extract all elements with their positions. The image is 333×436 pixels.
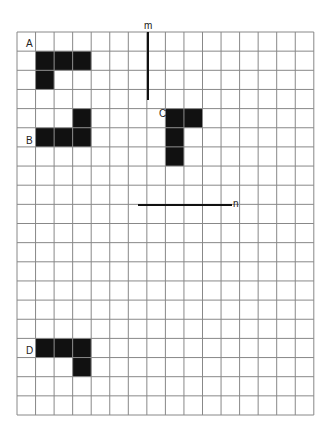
shape-A-cell	[36, 70, 55, 89]
shape-D-cell	[73, 338, 92, 357]
label-D: D	[26, 345, 33, 356]
grid-diagram	[0, 0, 333, 436]
shape-C-cell	[184, 109, 203, 128]
label-B: B	[26, 135, 33, 146]
shape-A-cell	[54, 51, 73, 70]
label-n: n	[233, 198, 239, 209]
shape-A-cell	[36, 51, 55, 70]
shape-B-cell	[54, 128, 73, 147]
shape-D-cell	[54, 338, 73, 357]
shape-B-cell	[73, 109, 92, 128]
shape-C-cell	[165, 147, 184, 166]
shape-C-cell	[165, 128, 184, 147]
shape-B-cell	[73, 128, 92, 147]
shape-D-cell	[73, 358, 92, 377]
shape-B-cell	[36, 128, 55, 147]
shape-C-cell	[165, 109, 184, 128]
shape-A-cell	[73, 51, 92, 70]
label-A: A	[26, 38, 33, 49]
label-C: C	[159, 108, 166, 119]
label-m: m	[144, 20, 152, 31]
shape-D-cell	[36, 338, 55, 357]
